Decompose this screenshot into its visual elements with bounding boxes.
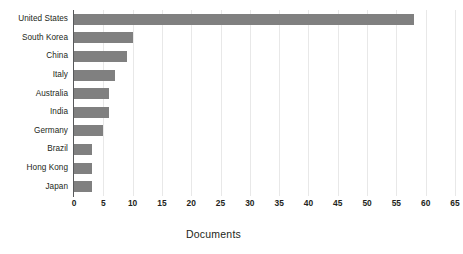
x-tick-label-55: 55 (392, 199, 401, 207)
x-tick-label-30: 30 (245, 199, 254, 207)
bar-italy (74, 70, 115, 81)
bar-row (74, 47, 127, 66)
y-axis-label-8: Hong Kong (0, 159, 68, 178)
bar-japan (74, 181, 92, 192)
bar-row (74, 10, 414, 29)
bars (74, 10, 455, 196)
x-axis-tick-labels: 05101520253035404550556065 (0, 199, 463, 213)
bar-india (74, 107, 109, 118)
y-axis-line (73, 10, 74, 197)
bar-south-korea (74, 32, 133, 43)
y-axis-label-9: Japan (0, 177, 68, 196)
bar-china (74, 51, 127, 62)
plot-area (74, 10, 455, 196)
x-axis-title-text: Documents (186, 228, 241, 240)
bar-hong-kong (74, 163, 92, 174)
x-tick-label-10: 10 (128, 199, 137, 207)
y-axis-label-2: China (0, 47, 68, 66)
y-axis-category-labels: United States South Korea China Italy Au… (0, 10, 68, 196)
x-tick-label-40: 40 (304, 199, 313, 207)
bar-row (74, 177, 92, 196)
y-axis-label-5: India (0, 103, 68, 122)
x-tick-label-25: 25 (216, 199, 225, 207)
x-axis-title: Documents (0, 228, 463, 240)
y-axis-label-6: Germany (0, 122, 68, 141)
y-axis-label-4: Australia (0, 84, 68, 103)
x-tick-label-20: 20 (187, 199, 196, 207)
x-tick-label-35: 35 (274, 199, 283, 207)
bar-row (74, 103, 109, 122)
bar-row (74, 29, 133, 48)
bar-united-states (74, 14, 414, 25)
bar-germany (74, 125, 103, 136)
bar-row (74, 66, 115, 85)
bar-brazil (74, 144, 92, 155)
bar-chart: United States South Korea China Italy Au… (0, 0, 463, 254)
x-tick-label-0: 0 (72, 199, 77, 207)
x-tick-label-50: 50 (362, 199, 371, 207)
x-tick-label-5: 5 (101, 199, 106, 207)
x-tick-label-15: 15 (157, 199, 166, 207)
bar-row (74, 159, 92, 178)
y-axis-label-0: United States (0, 10, 68, 29)
y-axis-label-7: Brazil (0, 140, 68, 159)
bar-row (74, 84, 109, 103)
x-tick-label-60: 60 (421, 199, 430, 207)
x-tick-label-45: 45 (333, 199, 342, 207)
y-axis-label-3: Italy (0, 66, 68, 85)
x-tick-label-65: 65 (450, 199, 459, 207)
gridline-65 (455, 10, 456, 196)
y-axis-label-1: South Korea (0, 29, 68, 48)
bar-row (74, 122, 103, 141)
bar-australia (74, 88, 109, 99)
bar-row (74, 140, 92, 159)
